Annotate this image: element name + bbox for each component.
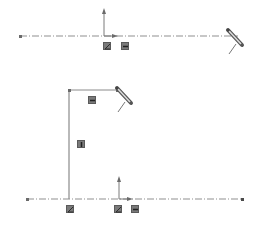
bottom-origin-icon <box>117 176 133 201</box>
pencil-cursor-icon <box>227 29 243 55</box>
horizontal-icon[interactable] <box>88 96 96 104</box>
horizontal-icon[interactable] <box>131 205 139 213</box>
vertical-icon[interactable] <box>77 140 85 148</box>
horizontal-icon[interactable] <box>121 42 129 50</box>
sketch-geometry <box>0 0 261 230</box>
coincident-icon[interactable] <box>103 42 111 50</box>
sketch-corner-point[interactable] <box>68 89 71 92</box>
pencil-cursor-icon <box>116 87 132 113</box>
top-origin-icon <box>102 8 118 38</box>
sketch-canvas[interactable]: sketch-canvas <box>0 0 261 230</box>
bottom-centerline[interactable] <box>26 198 244 201</box>
coincident-icon[interactable] <box>114 205 122 213</box>
top-centerline[interactable] <box>19 35 238 38</box>
coincident-icon[interactable] <box>66 205 74 213</box>
